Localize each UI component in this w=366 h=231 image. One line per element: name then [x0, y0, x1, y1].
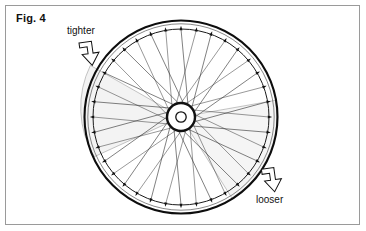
spoke — [194, 50, 237, 113]
spoke — [137, 131, 181, 193]
spoke-nipple — [180, 204, 183, 208]
spoke-nipple — [195, 27, 198, 32]
spoke — [151, 126, 170, 200]
wheel-hub — [167, 103, 195, 131]
spoke — [186, 60, 249, 103]
wheel-diagram-canvas — [0, 0, 366, 231]
hub-axle-hole — [176, 112, 186, 122]
spoke-nipple — [195, 202, 198, 207]
spoke — [174, 129, 181, 205]
callout-label-tighter: tighter — [67, 25, 95, 36]
tighter-arrow-icon — [79, 40, 101, 66]
spoke-nipple — [164, 202, 167, 207]
figure-container: Fig. 4 tighter looser — [0, 0, 366, 231]
spoke — [166, 130, 186, 204]
spoke — [151, 34, 184, 103]
spoke — [176, 30, 196, 104]
spoke — [181, 29, 188, 105]
spoke-nipple — [164, 27, 167, 32]
spoke — [190, 87, 264, 106]
spoke — [181, 41, 225, 103]
figure-caption: Fig. 4 — [16, 12, 46, 24]
spoke — [192, 34, 211, 108]
spoke-nipple — [180, 26, 183, 30]
looser-arrow-icon — [261, 167, 283, 193]
callout-label-looser: looser — [256, 194, 283, 205]
